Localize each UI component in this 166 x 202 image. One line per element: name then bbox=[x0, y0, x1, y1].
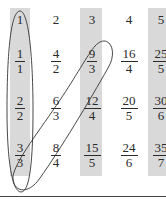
bottom-rule bbox=[0, 196, 166, 197]
loop-overlay bbox=[0, 0, 166, 202]
diagonal-loop bbox=[13, 41, 113, 190]
vertical-loop bbox=[7, 11, 33, 192]
